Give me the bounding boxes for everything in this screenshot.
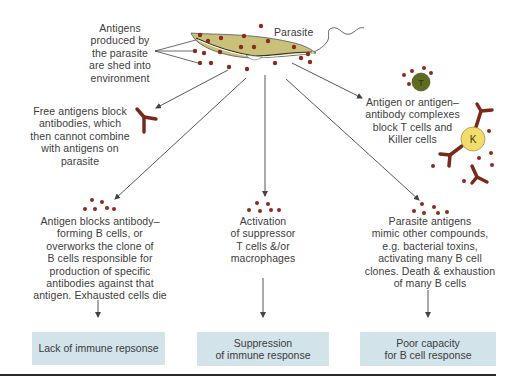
label-free-antigens: Free antigens block antibodies, which th… <box>24 105 136 167</box>
antibody-icon <box>137 109 156 132</box>
killer-cell-letter: K <box>470 134 477 145</box>
label-antigens-shed: Antigens produced by the parasite are sh… <box>80 22 160 84</box>
t-cell-letter: T <box>418 78 424 88</box>
antigen-cluster-right <box>412 202 449 215</box>
label-b-cell-block: Antigen blocks antibody– forming B cells… <box>28 215 172 302</box>
diagram-graphics: T K <box>0 0 523 382</box>
antigen-cluster-left <box>83 198 116 211</box>
antigen-cluster-middle <box>247 201 281 213</box>
outcome-box-lack-of-response: Lack of immune repsonse <box>32 332 165 365</box>
label-suppressor: Activation of suppressor T cells &/or ma… <box>225 215 301 265</box>
label-mimic: Parasite antigens mimic other compounds,… <box>360 215 500 289</box>
label-complexes: Antigen or antigen– antibody complexes b… <box>360 96 465 146</box>
outcome-box-suppression: Suppression of immune response <box>197 332 329 366</box>
bottom-rule <box>0 374 496 376</box>
diagram-root: T K <box>0 0 523 382</box>
t-cell-icon: T <box>402 66 433 91</box>
label-parasite: Parasite <box>274 26 324 38</box>
outcome-box-poor-capacity: Poor capacity for B cell response <box>360 332 496 366</box>
pointer-lines <box>155 40 198 63</box>
